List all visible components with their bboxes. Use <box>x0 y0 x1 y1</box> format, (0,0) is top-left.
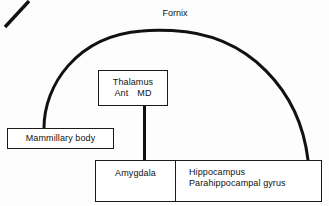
thalamus-nuclei: Ant MD <box>114 88 151 99</box>
mammillary-body-label: Mammillary body <box>26 133 96 144</box>
amygdala-cell[interactable]: Amygdala <box>96 161 176 201</box>
amygdala-label: Amygdala <box>115 168 156 179</box>
temporal-lobe-box: Amygdala Hippocampus Parahippocampal gyr… <box>95 160 322 202</box>
amygdalofugal-pathway-connector <box>143 105 146 161</box>
thalamus-nucleus-ant: Ant <box>114 88 128 99</box>
diagram-canvas: Fornix Thalamus Ant MD Mammillary body A… <box>0 0 329 206</box>
hippocampus-label: Hippocampus <box>189 167 245 178</box>
parahippocampal-gyrus-label: Parahippocampal gyrus <box>189 178 286 189</box>
mammillary-body-box[interactable]: Mammillary body <box>7 128 114 149</box>
thalamus-nucleus-md: MD <box>137 88 151 99</box>
thalamus-box[interactable]: Thalamus Ant MD <box>98 70 168 106</box>
thalamus-label: Thalamus <box>113 77 153 88</box>
fornix-label: Fornix <box>143 8 207 19</box>
hippocampal-cell[interactable]: Hippocampus Parahippocampal gyrus <box>176 161 321 201</box>
